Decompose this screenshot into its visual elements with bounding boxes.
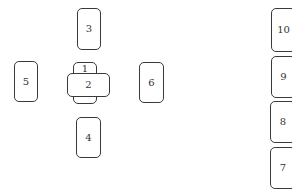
card-6-label: 6 [148,78,154,88]
card-10-label: 10 [277,25,290,35]
card-8: 8 [270,101,292,143]
card-7-label: 7 [280,163,286,173]
card-8-label: 8 [280,117,286,127]
card-3: 3 [77,8,101,50]
card-2: 2 [67,73,110,97]
card-5: 5 [14,61,38,102]
card-3-label: 3 [86,24,92,34]
card-7: 7 [270,147,292,189]
card-4: 4 [76,117,101,158]
card-5-label: 5 [23,77,29,87]
card-6: 6 [139,62,164,103]
card-9-label: 9 [280,72,286,82]
card-2-label: 2 [85,80,91,90]
card-4-label: 4 [85,133,91,143]
card-10: 10 [271,8,292,52]
card-9: 9 [271,56,292,98]
